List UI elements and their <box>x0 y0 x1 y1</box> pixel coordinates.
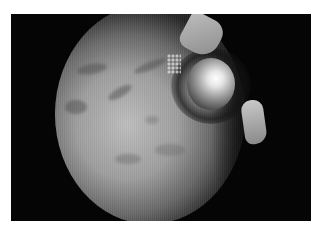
bright-spherical-structure <box>187 58 235 110</box>
dark-streak <box>106 82 133 103</box>
dark-spot <box>115 154 141 164</box>
dark-streak <box>133 56 168 76</box>
image-frame <box>11 14 311 221</box>
dark-streak <box>76 61 107 76</box>
dark-streak <box>65 100 87 114</box>
dark-spot <box>145 116 159 124</box>
instrument-tip-right <box>240 99 268 146</box>
speckled-region <box>167 54 181 74</box>
